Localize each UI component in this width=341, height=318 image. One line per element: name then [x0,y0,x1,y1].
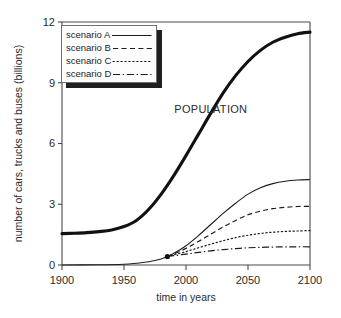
legend-item: scenario A [66,28,153,41]
y-axis-title: number of cars, trucks and buses (billio… [12,45,24,242]
legend-swatch-dotted [112,56,153,65]
branch-point-marker [165,254,170,259]
legend-swatch-dashdot [112,69,153,78]
legend-item-label: scenario C [66,55,111,66]
legend-item: scenario C [66,54,153,67]
chart-figure: 03691219001950200020502100time in yearsn… [0,0,341,318]
x-tick-label: 2100 [298,274,322,286]
chart-legend: scenario A scenario B scenario C scenari… [61,25,157,83]
legend-item-label: scenario A [66,29,110,40]
y-tick-label: 0 [49,259,55,271]
x-axis-title: time in years [156,291,216,303]
y-tick-label: 9 [49,77,55,89]
x-tick-label: 1950 [112,274,136,286]
x-tick-label: 2050 [236,274,260,286]
population-annotation: POPULATION [174,103,247,115]
series-line-scenario-d [167,247,310,257]
axis-labels: 03691219001950200020502100time in yearsn… [12,16,322,303]
y-tick-label: 12 [43,16,55,28]
chart-canvas: 03691219001950200020502100time in yearsn… [0,0,341,318]
data-markers [165,254,170,259]
x-tick-label: 2000 [174,274,198,286]
x-tick-label: 1900 [50,274,74,286]
legend-item: scenario D [66,67,153,80]
legend-item-label: scenario D [66,68,111,79]
y-tick-label: 6 [49,137,55,149]
y-tick-label: 3 [49,198,55,210]
series-line-scenario-a [62,180,310,265]
legend-swatch-dashed [112,43,153,52]
legend-swatch-solid [111,30,153,39]
legend-item-label: scenario B [66,42,111,53]
legend-item: scenario B [66,41,153,54]
